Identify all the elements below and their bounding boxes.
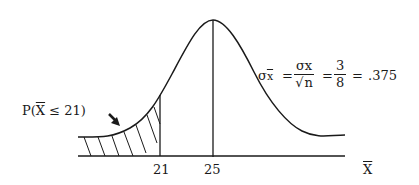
fraction-2-denominator: 8 [336, 75, 344, 90]
formula-lhs: σx [258, 69, 273, 82]
fraction-1-numerator: σx [294, 59, 314, 75]
standard-error-value: .375 [368, 69, 397, 82]
fraction-3-over-8: 3 8 [334, 59, 346, 91]
prob-operator: ≤ [45, 103, 64, 118]
xbar-subscript: x [267, 70, 273, 83]
fraction-sigma-over-root-n: σx √n [294, 59, 314, 91]
sqrt-icon: √ [295, 75, 303, 90]
x-axis-label: X [363, 163, 372, 176]
sigma-symbol: σ [258, 68, 267, 83]
equals-3: = [352, 69, 363, 82]
n-symbol: n [304, 74, 313, 90]
probability-label: P(X ≤ 21) [22, 104, 86, 117]
equals-2: = [322, 69, 333, 82]
fraction-2-numerator: 3 [334, 59, 346, 75]
fraction-1-denominator: √n [295, 75, 313, 90]
prob-value: 21) [64, 103, 86, 118]
normal-curve-figure [0, 0, 419, 185]
equals-1: = [282, 69, 293, 82]
tick-label-25: 25 [204, 163, 221, 176]
tick-label-21: 21 [153, 163, 170, 176]
arrow-icon [109, 114, 120, 126]
prob-prefix: P( [22, 103, 36, 118]
prob-xbar: X [36, 103, 45, 118]
